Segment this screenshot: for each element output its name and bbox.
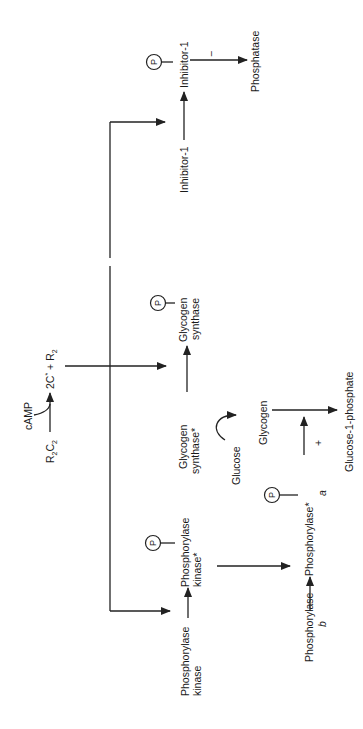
- phosphorylase-kinase-active-line2: kinase*: [191, 553, 203, 587]
- phosphate-icon: P: [151, 296, 176, 311]
- camp-binding-curve: [34, 404, 50, 415]
- inhibitor-1-pathway: Inhibitor-1 Inhibitor-1 P − Phosphatase: [147, 31, 262, 193]
- glycogen-synthase-inactive-line1: Glycogen: [177, 297, 189, 342]
- phosphorylase-a-line1: Phosphorylase*: [303, 502, 315, 576]
- glycogen-metabolism: Glucose Glycogen Glucose-1-phosphate: [216, 371, 355, 485]
- phosphatase-label: Phosphatase: [249, 31, 261, 92]
- phosphate-icon: P: [147, 55, 174, 70]
- inhibition-sign: −: [205, 51, 217, 57]
- glycogen-synthase-active-line1: Glycogen: [177, 424, 189, 469]
- phosphate-icon: P: [265, 488, 299, 503]
- glycogen-synthase-inactive-line2: synthase: [189, 298, 201, 340]
- phosphorylase-kinase-active-line1: Phosphorylase: [179, 517, 191, 587]
- svg-text:P: P: [149, 59, 159, 65]
- phosphorylase-kinase-inactive-line2: kinase: [191, 665, 203, 696]
- phosphorylase-b-line2: b: [316, 621, 328, 627]
- glycogen-synthase-active-line2: synthase*: [189, 428, 201, 474]
- phosphate-icon: P: [146, 536, 176, 551]
- free-catalytic-label: 2C* + R2: [44, 349, 58, 389]
- glucose-1-phosphate-label: Glucose-1-phosphate: [343, 371, 355, 472]
- r2c2-label: R2C2: [44, 440, 58, 463]
- phosphorylase-kinase-pathway: Phosphorylase kinase Phosphorylase kinas…: [146, 517, 291, 696]
- camp-label: cAMP: [22, 402, 34, 430]
- phosphorylase-pathway: Phosphorylase b Phosphorylase* a P +: [265, 417, 329, 662]
- phosphorylase-kinase-inactive-line1: Phosphorylase: [179, 626, 191, 696]
- svg-text:P: P: [148, 540, 158, 546]
- svg-text:P: P: [153, 300, 163, 306]
- glycogen-regulation-diagram: R2C2 cAMP 2C* + R2 Inhibitor-1 Inhibitor…: [0, 0, 363, 729]
- glycogen-synthase-pathway: Glycogen synthase* Glycogen synthase P: [151, 296, 202, 475]
- glycogen-label: Glycogen: [257, 400, 269, 445]
- phosphorylase-a-line2: a: [316, 490, 328, 496]
- glucose-incorporation-arrow: [216, 415, 236, 440]
- inhibitor-1-inactive-label: Inhibitor-1: [178, 146, 190, 193]
- glucose-label: Glucose: [230, 446, 242, 485]
- svg-text:P: P: [267, 492, 277, 498]
- camp-activation: R2C2 cAMP 2C* + R2: [22, 349, 166, 463]
- phosphorylase-b-line1: Phosphorylase: [303, 592, 315, 662]
- inhibitor-1-active-label: Inhibitor-1: [178, 41, 190, 88]
- activation-sign: +: [312, 440, 324, 446]
